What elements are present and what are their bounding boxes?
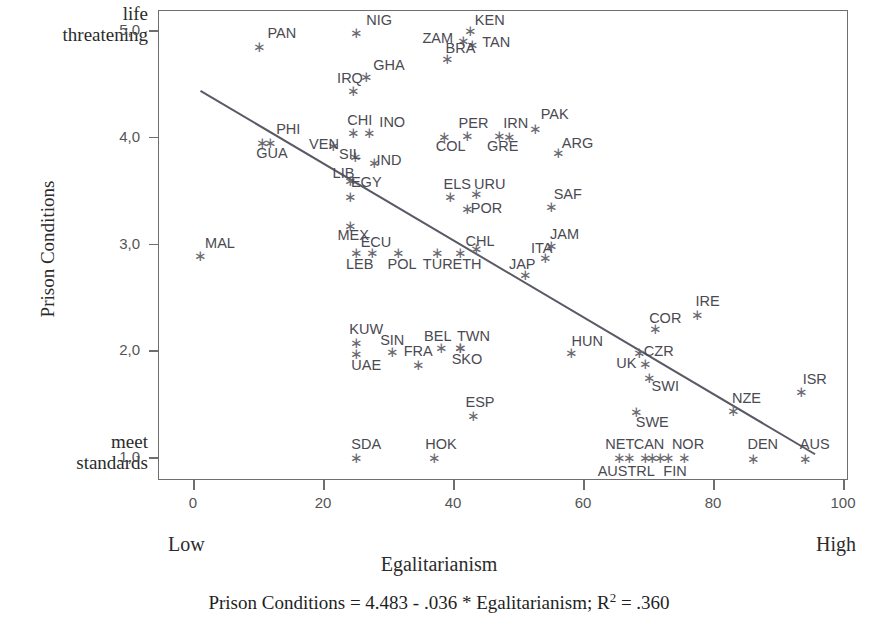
data-point-label: GUA	[256, 145, 287, 160]
x-tick-mark	[583, 480, 585, 490]
data-point-label: KEN	[475, 13, 505, 28]
data-point-label: POL	[387, 256, 416, 271]
data-point-marker: ∗	[799, 451, 812, 466]
data-point-label: AUS	[800, 437, 830, 452]
data-point-label: PAN	[267, 26, 296, 41]
y-tick-mark	[149, 350, 158, 352]
y-tick-mark	[149, 30, 158, 32]
data-point-label: URU	[474, 176, 505, 191]
data-point-label: HUN	[572, 333, 603, 348]
data-point-label: AUSTRL	[598, 464, 655, 479]
caption-suffix: = .360	[616, 592, 669, 613]
y-tick-label: 4,0	[100, 128, 140, 145]
data-point-label: SIN	[380, 332, 404, 347]
data-point-marker: ∗	[654, 449, 667, 464]
x-tick-mark	[453, 480, 455, 490]
data-point-marker: ∗	[344, 189, 357, 204]
data-point-label: SIL	[339, 147, 361, 162]
caption-prefix: Prison Conditions = 4.483 - .036 * Egali…	[208, 592, 609, 613]
data-point-label: ECU	[361, 235, 392, 250]
data-point-label: IRE	[695, 294, 719, 309]
data-point-label: SKO	[452, 351, 483, 366]
data-point-label: JAM	[550, 227, 579, 242]
y-tick-label: 3,0	[100, 235, 140, 252]
y-tick-label: 2,0	[100, 341, 140, 358]
data-point-label: NZE	[732, 391, 761, 406]
y-axis-title: Prison Conditions	[37, 139, 59, 359]
data-point-label: UAE	[351, 358, 381, 373]
data-point-label: BEL	[424, 329, 451, 344]
data-point-label: BRA	[446, 41, 476, 56]
data-point-label: DEN	[747, 437, 778, 452]
data-point-label: KUW	[349, 322, 383, 337]
data-point-label: UK	[616, 356, 636, 371]
data-point-label: FRA	[404, 344, 433, 359]
data-point-label: GHA	[373, 58, 404, 73]
data-point-label: COR	[649, 311, 681, 326]
data-point-marker: ∗	[529, 121, 542, 136]
data-point-label: SWE	[636, 414, 669, 429]
y-tick-label: 5,0	[100, 21, 140, 38]
x-tick-label: 100	[823, 494, 863, 511]
x-tick-mark	[323, 480, 325, 490]
data-point-marker: ∗	[350, 25, 363, 40]
data-point-label: IRQ	[337, 71, 363, 86]
data-point-label: GRE	[487, 139, 518, 154]
scatter-chart: life threatening meet standards Prison C…	[0, 0, 878, 626]
data-point-label: MAL	[205, 236, 235, 251]
y-tick-mark	[149, 457, 158, 459]
data-point-label: IND	[377, 153, 402, 168]
data-point-label: NIG	[366, 13, 392, 28]
data-point-label: ETH	[453, 256, 482, 271]
data-point-label: LEB	[346, 256, 373, 271]
data-point-marker: ∗	[363, 125, 376, 140]
plot-area: ∗PAN∗NIG∗ZAM∗KEN∗TAN∗BRA∗GHA∗IRQ∗CHI∗INO…	[158, 10, 848, 480]
data-point-label: FIN	[663, 464, 686, 479]
data-point-label: SWI	[652, 379, 679, 394]
data-point-label: TAN	[482, 34, 510, 49]
data-point-label: TUR	[423, 256, 453, 271]
x-tick-mark	[713, 480, 715, 490]
x-tick-mark	[843, 480, 845, 490]
data-point-label: CHL	[465, 234, 494, 249]
y-tick-mark	[149, 137, 158, 139]
x-tick-label: 60	[563, 494, 603, 511]
data-point-label: JAP	[509, 256, 536, 271]
data-point-label: ESP	[465, 395, 494, 410]
data-point-label: INO	[379, 114, 405, 129]
data-point-label: COL	[436, 139, 466, 154]
data-point-label: ISR	[803, 372, 827, 387]
data-point-marker: ∗	[747, 451, 760, 466]
regression-equation-caption: Prison Conditions = 4.483 - .036 * Egali…	[0, 590, 878, 614]
data-point-label: POR	[471, 201, 502, 216]
y-tick-mark	[149, 244, 158, 246]
data-point-label: PHI	[276, 122, 300, 137]
x-tick-label: 40	[433, 494, 473, 511]
y-tick-label: 1,0	[100, 448, 140, 465]
x-tick-label: 0	[173, 494, 213, 511]
data-point-label: SDA	[351, 437, 381, 452]
data-point-label: ELS	[444, 176, 471, 191]
data-point-label: HOK	[425, 437, 456, 452]
x-tick-label: 80	[693, 494, 733, 511]
data-point-label: VEN	[309, 137, 339, 152]
data-point-label: PAK	[541, 107, 569, 122]
x-tick-mark	[193, 480, 195, 490]
data-point-label: SAF	[554, 187, 582, 202]
data-point-label: ITA	[531, 240, 552, 255]
x-tick-label: 20	[303, 494, 343, 511]
data-point-label: EGY	[351, 174, 382, 189]
data-point-marker: ∗	[253, 38, 266, 53]
data-point-label: PER	[459, 116, 489, 131]
data-point-label: ARG	[562, 136, 593, 151]
x-axis-title: Egalitarianism	[0, 553, 878, 576]
